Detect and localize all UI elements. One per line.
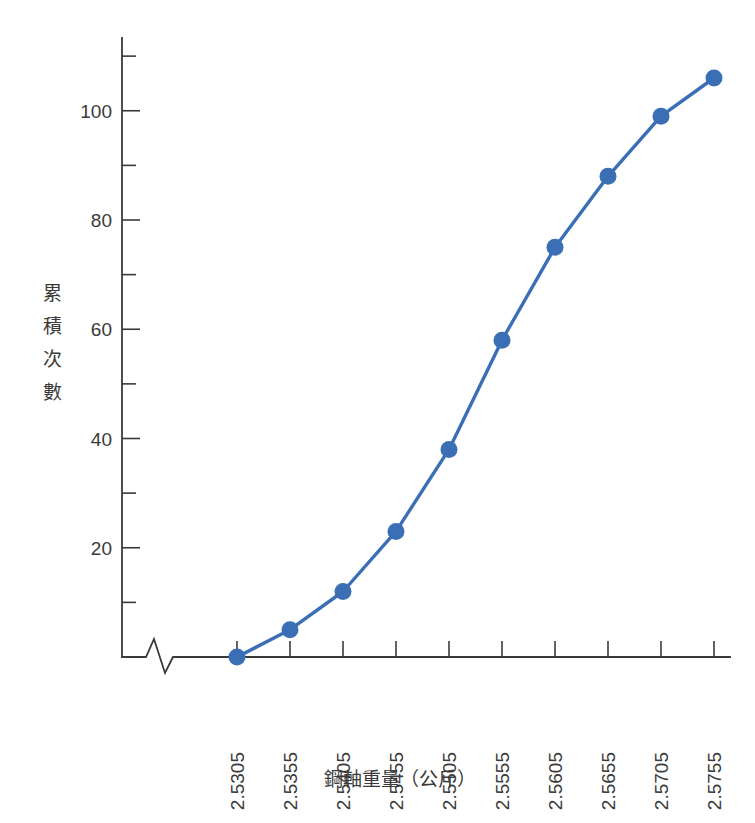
x-axis-title: 鋼軸重量（公斤） bbox=[324, 768, 476, 790]
x-tick-label: 2.5705 bbox=[651, 752, 672, 810]
y-axis-title: 累積次數 bbox=[43, 282, 62, 403]
y-tick-label: 60 bbox=[91, 319, 112, 340]
x-tick-label: 2.5655 bbox=[598, 752, 619, 810]
series-group bbox=[229, 70, 723, 666]
x-tick-label: 2.5555 bbox=[492, 752, 513, 810]
y-tick-label: 20 bbox=[91, 538, 112, 559]
y-axis-title-char: 數 bbox=[43, 381, 62, 403]
x-ticks-group bbox=[237, 641, 714, 657]
axes-group bbox=[122, 38, 730, 673]
x-tick-labels-group: 2.53052.53552.54052.54552.55052.55552.56… bbox=[227, 752, 725, 810]
y-tick-label: 100 bbox=[80, 101, 112, 122]
y-axis-title-char: 積 bbox=[43, 315, 62, 337]
data-point bbox=[335, 583, 352, 600]
data-point bbox=[547, 239, 564, 256]
series-line-cumulative-frequency bbox=[237, 78, 714, 657]
data-point bbox=[653, 108, 670, 125]
x-tick-label: 2.5305 bbox=[227, 752, 248, 810]
y-axis-title-char: 累 bbox=[43, 282, 62, 304]
x-tick-label: 2.5755 bbox=[704, 752, 725, 810]
y-axis-title-char: 次 bbox=[43, 348, 62, 370]
cumulative-frequency-chart: 20406080100 2.53052.53552.54052.54552.55… bbox=[0, 0, 755, 823]
y-tick-label: 40 bbox=[91, 429, 112, 450]
data-point bbox=[282, 621, 299, 638]
chart-container: 20406080100 2.53052.53552.54052.54552.55… bbox=[0, 0, 755, 823]
x-tick-label: 2.5355 bbox=[280, 752, 301, 810]
y-ticks-group bbox=[122, 56, 140, 602]
x-axis-line-with-break bbox=[122, 639, 730, 673]
data-point bbox=[229, 649, 246, 666]
y-tick-labels-group: 20406080100 bbox=[80, 101, 112, 559]
y-tick-label: 80 bbox=[91, 210, 112, 231]
data-point bbox=[600, 168, 617, 185]
data-point bbox=[706, 70, 723, 87]
series-markers-group bbox=[229, 70, 723, 666]
data-point bbox=[388, 523, 405, 540]
data-point bbox=[494, 332, 511, 349]
x-tick-label: 2.5605 bbox=[545, 752, 566, 810]
data-point bbox=[441, 441, 458, 458]
